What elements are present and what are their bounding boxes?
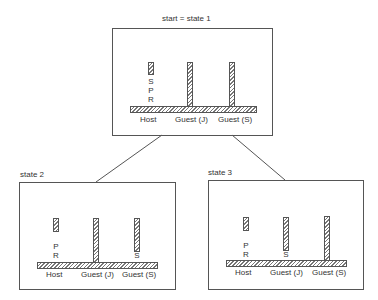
state1-host-disk-2: P <box>146 86 156 95</box>
state3-title: state 3 <box>208 168 232 177</box>
state3-host-peg <box>243 217 249 231</box>
state3-guest-j-peg <box>283 217 289 251</box>
state2-host-peg <box>53 218 59 232</box>
state2-title: state 2 <box>20 170 44 179</box>
state2-guest-j-peg <box>93 218 99 264</box>
state2-guest-s-disk-1: S <box>132 251 142 260</box>
state3-guest-s-peg <box>324 216 330 262</box>
state1-host-disk-1: S <box>146 77 156 86</box>
state3-base-bar <box>226 260 347 267</box>
connector-state1-state3 <box>232 135 285 180</box>
state2-guest-s-peg <box>134 218 140 252</box>
state1-host-peg <box>148 62 154 75</box>
state3-guest-j-disk-1: S <box>281 250 291 259</box>
state1-host-disk-3: R <box>146 95 156 104</box>
state3-host-disk-2: R <box>241 250 251 259</box>
state3-label-guest-j: Guest (J) <box>270 268 303 277</box>
state2-host-disk-1: P <box>51 242 61 251</box>
state1-label-guest-j: Guest (J) <box>175 115 208 124</box>
state3-host-disk-1: P <box>241 241 251 250</box>
state1-guest-s-peg <box>229 62 235 108</box>
state1-title: start = state 1 <box>162 14 211 23</box>
state2-label-guest-j: Guest (J) <box>81 270 114 279</box>
state1-label-guest-s: Guest (S) <box>218 115 252 124</box>
state2-host-disk-2: R <box>51 251 61 260</box>
state3-label-guest-s: Guest (S) <box>312 268 346 277</box>
state1-base-bar <box>130 106 257 113</box>
connector-state1-state2 <box>96 135 162 182</box>
state2-label-guest-s: Guest (S) <box>122 270 156 279</box>
state1-guest-j-peg <box>187 62 193 108</box>
state1-label-host: Host <box>140 115 156 124</box>
state3-label-host: Host <box>235 268 251 277</box>
state2-label-host: Host <box>46 270 62 279</box>
state2-base-bar <box>37 262 158 269</box>
